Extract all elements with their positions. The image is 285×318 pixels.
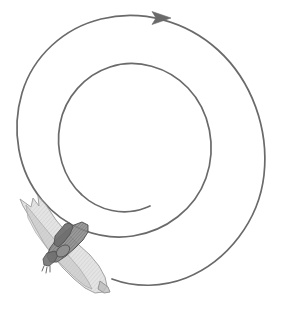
larval-organism [20,196,110,293]
figure-container: Spiral swimming trajectory of a transpar… [0,0,285,318]
spiral-trajectory-figure: Spiral swimming trajectory of a transpar… [0,0,285,318]
internal-filament [42,266,50,273]
internal-appendage-lower [43,251,58,266]
